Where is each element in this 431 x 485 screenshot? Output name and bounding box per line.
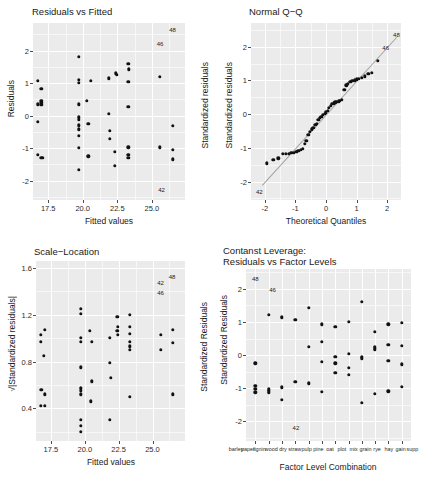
data-point <box>89 79 92 82</box>
x-tick-label: 17.5 <box>44 445 59 454</box>
data-point <box>128 348 131 351</box>
x-tick-mark <box>295 441 296 444</box>
gridline-minor-horizontal <box>33 99 185 100</box>
gridline-major-vertical <box>85 261 86 441</box>
data-point <box>107 76 110 79</box>
data-point <box>158 75 161 78</box>
data-point <box>171 341 174 344</box>
x-category-label: mix <box>349 446 357 452</box>
secondary-y-axis-title: Standardized residuals <box>200 62 210 148</box>
data-point <box>87 122 90 125</box>
data-point <box>77 134 80 137</box>
x-tick-mark <box>357 200 358 203</box>
gridline-minor-horizontal <box>33 197 185 198</box>
data-point <box>347 373 350 376</box>
x-tick-mark <box>362 441 363 444</box>
x-category-label: wood <box>265 446 278 452</box>
y-tick-label: -1 <box>223 143 247 152</box>
gridline-major-vertical <box>48 23 49 200</box>
x-tick-mark <box>349 441 350 444</box>
outlier-label: 42 <box>293 425 300 431</box>
data-point <box>363 75 366 78</box>
data-point <box>127 156 130 159</box>
gridline-minor-horizontal <box>246 405 411 406</box>
gridline-major-vertical <box>265 23 266 200</box>
data-point <box>128 313 131 316</box>
x-tick-mark <box>387 200 388 203</box>
data-point <box>128 332 131 335</box>
data-point <box>77 124 80 127</box>
diagnostic-plot-grid: Residuals vs Fitted 484642 Fitted values… <box>0 0 431 485</box>
gridline-major-horizontal <box>246 355 411 356</box>
data-point <box>77 81 80 84</box>
x-tick-mark <box>48 200 49 203</box>
data-point <box>41 156 44 159</box>
outlier-label: 48 <box>252 276 259 282</box>
gridline-minor-vertical <box>372 23 373 200</box>
data-point <box>387 359 390 362</box>
data-point <box>320 322 323 325</box>
outlier-label: 46 <box>269 287 276 293</box>
y-tick-label: -1 <box>5 144 29 153</box>
y-axis-title: Standardized Residuals <box>219 295 229 385</box>
data-point <box>312 126 315 129</box>
y-tick-mark <box>243 322 246 323</box>
panel-scale-location: Scale−Location 484246 Fitted values √|St… <box>0 240 216 485</box>
outlier-label: 42 <box>256 189 263 195</box>
x-tick-mark <box>375 441 376 444</box>
x-axis-title: Fitted values <box>87 457 135 467</box>
y-tick-label: 2 <box>5 46 29 55</box>
x-category-label: plot <box>337 446 346 452</box>
y-tick-mark <box>243 289 246 290</box>
gridline-major-vertical <box>295 23 296 200</box>
panel-title: Scale−Location <box>34 246 99 257</box>
plot-area: 484246 <box>36 261 185 441</box>
data-point <box>79 340 82 343</box>
x-axis-title: Theoretical Quantiles <box>286 216 366 226</box>
data-point <box>113 164 116 167</box>
data-point <box>171 328 174 331</box>
data-point <box>77 168 80 171</box>
y-tick-mark <box>30 148 33 149</box>
data-point <box>307 382 310 385</box>
x-tick-label: -2 <box>261 204 268 213</box>
x-tick-label: -1 <box>292 204 299 213</box>
x-tick-mark <box>309 441 310 444</box>
gridline-major-horizontal <box>33 181 185 182</box>
data-point <box>79 424 82 427</box>
data-point <box>400 321 403 324</box>
x-category-label: hay <box>385 446 394 452</box>
secondary-y-axis-title: Standardized Residuals <box>199 302 209 392</box>
gridline-major-vertical <box>357 23 358 200</box>
data-point <box>108 336 111 339</box>
y-tick-label: 0.8 <box>8 357 32 366</box>
data-point <box>159 348 162 351</box>
data-point <box>267 391 270 394</box>
x-category-label: pine <box>313 446 323 452</box>
data-point <box>108 361 111 364</box>
x-tick-label: 0 <box>324 204 328 213</box>
y-tick-label: 0.4 <box>8 404 32 413</box>
y-tick-mark <box>30 51 33 52</box>
y-tick-label: -2 <box>223 177 247 186</box>
data-point <box>108 418 111 421</box>
data-point <box>127 68 130 71</box>
gridline-minor-horizontal <box>33 34 185 35</box>
data-point <box>387 343 390 346</box>
data-point <box>171 124 174 127</box>
gridline-major-vertical <box>83 23 84 200</box>
data-point <box>333 362 336 365</box>
gridline-major-vertical <box>269 269 270 441</box>
y-tick-mark <box>33 408 36 409</box>
data-point <box>43 392 46 395</box>
data-point <box>77 146 80 149</box>
y-tick-mark <box>248 80 251 81</box>
gridline-minor-horizontal <box>246 372 411 373</box>
gridline-minor-vertical <box>341 23 342 200</box>
x-axis-title: Fitted values <box>85 216 133 226</box>
gridline-minor-vertical <box>280 23 281 200</box>
data-point <box>280 398 283 401</box>
data-point <box>40 103 43 106</box>
data-point <box>79 430 82 433</box>
gridline-major-vertical <box>402 269 403 441</box>
